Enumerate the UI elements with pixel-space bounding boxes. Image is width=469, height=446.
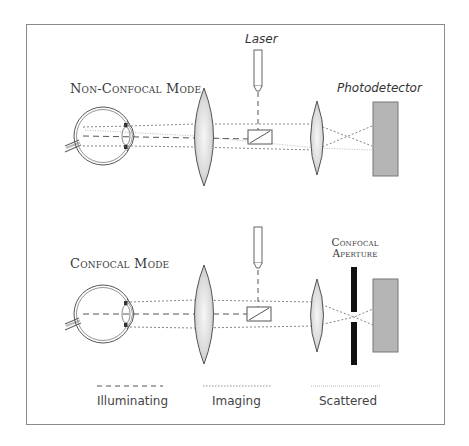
confocal-aperture-top — [351, 267, 357, 312]
confocal-diagram: Non-Confocal Mode Laser Photodetector Co… — [0, 0, 469, 446]
optics-drawing — [0, 0, 469, 446]
laser-label: Laser — [245, 32, 278, 46]
photodetector-label: Photodetector — [337, 81, 422, 95]
aperture-label-line2: Aperture — [322, 248, 388, 259]
objective-lens — [195, 265, 214, 364]
collector-lens — [311, 101, 324, 175]
top-panel-title: Non-Confocal Mode — [70, 81, 201, 96]
legend-label-scattered: Scattered — [319, 394, 377, 408]
legend-label-illuminating: Illuminating — [97, 394, 168, 408]
laser-icon — [254, 227, 262, 268]
confocal-aperture-bottom — [351, 322, 357, 365]
objective-lens — [195, 88, 214, 186]
photodetector — [373, 279, 398, 352]
legend-label-imaging: Imaging — [212, 394, 261, 408]
top-panel — [65, 50, 398, 186]
eye-icon — [65, 107, 134, 165]
confocal-aperture-label: Confocal Aperture — [322, 237, 388, 259]
laser-icon — [254, 50, 262, 91]
photodetector — [373, 102, 398, 176]
collector-lens — [311, 279, 324, 352]
bottom-panel-title: Confocal Mode — [70, 256, 169, 271]
